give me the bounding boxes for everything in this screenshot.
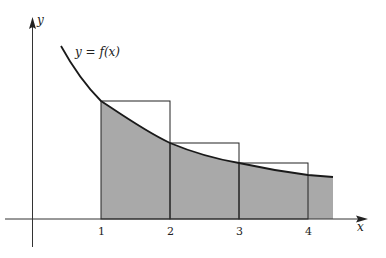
y-axis-label: y <box>36 13 44 27</box>
curve-label: y = f(x) <box>74 45 120 59</box>
x-tick-label-1: 1 <box>98 225 105 238</box>
x-tick-label-3: 3 <box>236 225 243 238</box>
x-axis-label: x <box>357 220 364 234</box>
riemann-sum-diagram: y x y = f(x) 1 2 3 4 <box>0 0 386 258</box>
x-tick-label-2: 2 <box>167 225 174 238</box>
shaded-area-under-curve <box>101 101 333 219</box>
x-tick-label-4: 4 <box>305 225 312 238</box>
